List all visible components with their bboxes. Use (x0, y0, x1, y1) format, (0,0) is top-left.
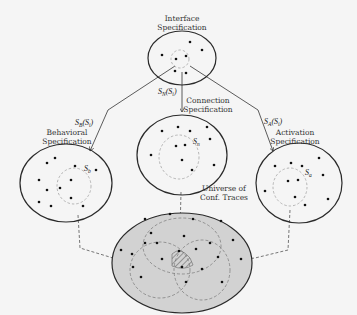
activation-points (264, 157, 330, 207)
subset-label-sb: Sb (84, 164, 91, 174)
subset-label-sa: Sa (305, 168, 312, 178)
diagram-canvas: Interface Specification Connection Speci… (0, 0, 357, 315)
svg-text:Specification: Specification (157, 23, 207, 32)
svg-text:Conf. Traces: Conf. Traces (200, 193, 248, 202)
interface-label: Interface Specification (157, 14, 207, 32)
svg-text:Universe of: Universe of (202, 184, 247, 193)
interface-points (161, 41, 204, 75)
svg-text:Behavioral: Behavioral (47, 128, 88, 137)
edge-label-sb: SB(Si) (75, 118, 94, 128)
behavioral-label: Behavioral Specification (42, 128, 92, 146)
svg-text:Activation: Activation (275, 128, 315, 137)
activation-subset-ellipse (273, 168, 307, 206)
activation-specification-set (256, 143, 342, 223)
edge-label-sa: SA(Si) (264, 117, 283, 127)
svg-text:Specification: Specification (42, 137, 92, 146)
behavioral-points (38, 157, 98, 208)
behavioral-subset-ellipse (57, 168, 91, 204)
svg-text:Specification: Specification (270, 137, 320, 146)
activation-ellipse (256, 143, 342, 223)
behavioral-specification-set (20, 144, 112, 222)
universe-label: Universe of Conf. Traces (200, 184, 248, 202)
svg-text:Specification: Specification (183, 105, 233, 114)
svg-text:Interface: Interface (165, 14, 200, 23)
connection-points (150, 126, 216, 172)
edge-to-behavioral (90, 66, 175, 151)
svg-text:Connection: Connection (186, 96, 229, 105)
subset-label-sn: Sn (193, 137, 200, 147)
behavioral-ellipse (20, 144, 112, 222)
connection-label: Connection Specification (183, 96, 233, 114)
activation-label: Activation Specification (270, 128, 320, 146)
diagram-svg: Interface Specification Connection Speci… (0, 0, 357, 315)
connection-specification-set (137, 115, 227, 195)
interface-subset-ellipse (171, 50, 189, 68)
universe-set (112, 213, 252, 313)
edge-label-sn: SN(Si) (158, 87, 177, 97)
